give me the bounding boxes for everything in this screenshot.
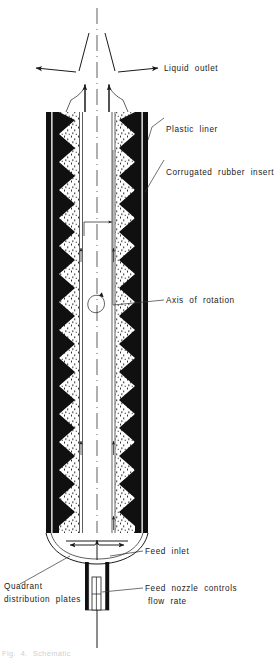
label-quadrant-line2: distribution plates	[4, 595, 81, 604]
label-feed-inlet: Feed inlet	[145, 547, 189, 556]
feed-inlet-assembly	[85, 562, 109, 648]
leader-lines	[20, 118, 164, 592]
rotation-arrowhead-icon	[99, 292, 104, 297]
feed-tube-wall-left	[85, 562, 89, 610]
rotation-loop-icon	[88, 292, 105, 312]
label-feed-nozzle-line2: flow rate	[148, 597, 187, 606]
leader-quadrant-plates	[20, 556, 70, 584]
label-corrugated-rubber-insert: Corrugated rubber insert	[166, 168, 274, 177]
liner-lip-right	[109, 85, 128, 112]
label-plastic-liner: Plastic liner	[166, 125, 218, 134]
leader-plastic-liner-tail	[148, 127, 152, 140]
outer-shell-left	[46, 112, 51, 533]
liner-lip-left	[66, 85, 85, 112]
label-feed-nozzle-line1: Feed nozzle controls	[145, 584, 237, 593]
bottom-cone-assembly	[46, 533, 148, 564]
outer-shell-right	[143, 112, 148, 533]
outlet-arrow-right-icon	[118, 68, 158, 72]
label-axis-of-rotation: Axis of rotation	[166, 296, 235, 305]
figure-root: Liquid outlet Plastic liner Corrugated r…	[0, 0, 279, 660]
right-annulus	[115, 112, 141, 533]
feed-tube-wall-right	[106, 562, 110, 610]
flare-wall-left	[79, 33, 89, 71]
label-quadrant-line1: Quadrant	[4, 582, 43, 591]
leader-plastic-liner	[152, 118, 164, 127]
rotor-body	[46, 8, 148, 560]
figure-caption-cutoff: Fig. 4. Schematic	[2, 649, 71, 658]
left-annulus	[53, 112, 79, 533]
outlet-arrow-left-icon	[36, 68, 76, 72]
label-liquid-outlet: Liquid outlet	[164, 64, 218, 73]
extractor-diagram: Liquid outlet Plastic liner Corrugated r…	[0, 0, 279, 660]
flare-wall-right	[105, 33, 115, 71]
